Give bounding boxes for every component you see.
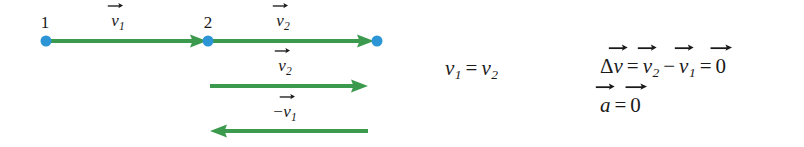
equation-v1-subscript: 1 <box>455 67 462 82</box>
point-label-1: 1 <box>41 14 50 31</box>
vector-label-minus-sign: − <box>273 102 283 121</box>
vector-label-v2-top-subscript: 2 <box>284 20 290 32</box>
equation-v2-subscript: 2 <box>491 67 498 82</box>
vector-label-v1: v 1 <box>111 12 125 32</box>
v1-glyph-with-vector-arrow: v <box>679 56 688 77</box>
arrow-v2-second <box>210 80 368 93</box>
vector-arrow-icon <box>596 81 615 90</box>
vector-arrow-icon <box>279 92 295 99</box>
equation-v1-subscript: 1 <box>689 65 696 80</box>
equation-v2-symbol: v <box>643 54 652 78</box>
equation-v2-symbol: v <box>481 56 490 80</box>
point-label-2-text: 2 <box>204 13 213 32</box>
vector-arrow-icon <box>625 81 647 90</box>
v-glyph-with-vector-arrow: v <box>614 56 623 77</box>
equation-zero-vector-symbol: 0 <box>716 54 727 78</box>
vector-arrow-icon <box>674 42 693 51</box>
vector-label-v2-top-symbol: v <box>276 11 284 30</box>
point-marker-2 <box>203 36 214 47</box>
arrow-v1 <box>48 35 207 48</box>
v-glyph-with-vector-arrow: v <box>276 12 284 29</box>
vector-label-minus-v1-subscript: 1 <box>291 111 297 123</box>
equation-v1-symbol: v <box>679 54 688 78</box>
point-marker-3 <box>372 36 383 47</box>
zero-glyph-with-vector-arrow: 0 <box>716 56 727 77</box>
arrow-v2-top <box>212 35 374 48</box>
zero-glyph-with-vector-arrow: 0 <box>630 95 641 116</box>
vector-label-v1-subscript: 1 <box>119 20 125 32</box>
vector-arrow-icon <box>274 46 290 53</box>
vector-arrow-icon <box>710 42 732 51</box>
point-label-2: 2 <box>204 14 213 31</box>
equation-acceleration-symbol: a <box>600 93 611 117</box>
a-glyph-with-vector-arrow: a <box>600 95 611 116</box>
vector-label-v1-symbol: v <box>111 11 119 30</box>
equation-v1-symbol: v <box>445 56 454 80</box>
equation-acceleration-zero: a = 0 <box>600 95 641 116</box>
v-glyph-with-vector-arrow: v <box>278 57 286 74</box>
arrow-minus-v1 <box>210 125 368 138</box>
equation-delta-v: Δ v = v 2− v 1= 0 <box>600 56 726 80</box>
equation-speeds-equal: v1=v2 <box>445 58 498 82</box>
v-glyph-with-vector-arrow: v <box>111 12 119 29</box>
point-marker-1 <box>41 36 52 47</box>
equation-delta-symbol: Δ <box>600 54 614 78</box>
equation-equals-operator-1: = <box>627 54 639 78</box>
vector-label-v2-second: v 2 <box>278 57 292 77</box>
equation-equals-operator: = <box>615 93 627 117</box>
point-label-1-text: 1 <box>41 13 50 32</box>
vector-arrow-icon <box>638 42 657 51</box>
v-glyph-with-vector-arrow: v <box>283 103 291 120</box>
v2-glyph-with-vector-arrow: v <box>643 56 652 77</box>
figure-canvas: 1 2 v 1 v 2 v 2 <box>0 0 804 147</box>
equation-equals-operator: = <box>466 56 478 80</box>
equation-minus-operator: − <box>663 54 675 78</box>
equation-equals-operator-2: = <box>700 54 712 78</box>
vector-arrow-icon <box>272 1 288 8</box>
equation-zero-vector-symbol: 0 <box>630 93 641 117</box>
vector-label-minus-v1: − v 1 <box>273 103 297 123</box>
equation-v2-subscript: 2 <box>653 65 660 80</box>
vector-arrow-icon <box>107 1 123 8</box>
vector-label-minus-v1-symbol: v <box>283 102 291 121</box>
vector-label-v2-second-symbol: v <box>278 56 286 75</box>
vector-label-v2-second-subscript: 2 <box>286 65 292 77</box>
vector-label-v2-top: v 2 <box>276 12 290 32</box>
equation-delta-v-symbol: v <box>614 54 623 78</box>
vector-arrow-icon <box>609 42 628 51</box>
